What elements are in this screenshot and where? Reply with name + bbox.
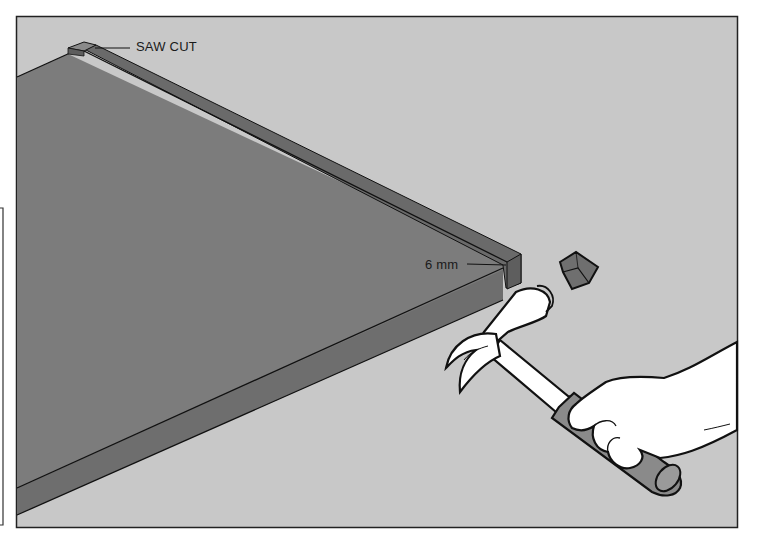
left-bracket-line xyxy=(0,208,3,525)
depth-label: 6 mm xyxy=(425,257,458,272)
saw-cut-label: SAW CUT xyxy=(136,39,197,54)
illustration xyxy=(0,0,764,555)
